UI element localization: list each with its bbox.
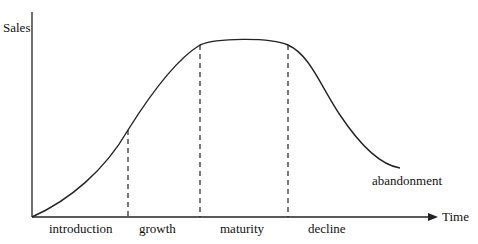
life-cycle-diagram (0, 0, 478, 244)
sales-curve (32, 39, 400, 217)
stage-label-decline: decline (308, 222, 346, 236)
y-axis-label: Sales (3, 21, 30, 35)
stage-label-introduction: introduction (49, 222, 113, 236)
stage-label-growth: growth (139, 222, 176, 236)
stage-dividers (128, 45, 288, 217)
stage-label-maturity: maturity (220, 222, 264, 236)
abandonment-annotation: abandonment (372, 174, 442, 188)
x-axis-arrow-icon (428, 213, 438, 221)
x-axis-label: Time (442, 210, 469, 224)
